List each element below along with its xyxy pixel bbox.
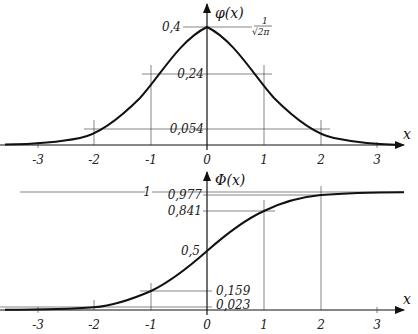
normal-distribution-figure: φ(x) x 1 √2π 0,4 0,24 0,054 -3 -2 -1 0 1… (0, 0, 418, 334)
svg-text:-1: -1 (145, 153, 157, 167)
cdf-ytick-0.023: 0,023 (216, 298, 251, 312)
cdf-ytick-0.5: 0,5 (181, 244, 200, 258)
cdf-ytick-1: 1 (143, 185, 151, 199)
svg-text:-2: -2 (88, 318, 100, 332)
density-x-label: x (403, 126, 411, 142)
svg-text:-3: -3 (32, 318, 44, 332)
density-chart: φ(x) x 1 √2π 0,4 0,24 0,054 -3 -2 -1 0 1… (0, 4, 411, 167)
cdf-ytick-0.841: 0,841 (168, 204, 202, 218)
density-x-tick-labels: -3 -2 -1 0 1 2 3 (32, 153, 381, 167)
cdf-y-label: Φ(x) (215, 172, 245, 188)
cdf-curve (5, 192, 404, 310)
cdf-x-label: x (403, 291, 411, 307)
svg-text:3: 3 (373, 153, 381, 167)
density-ytick-0.054: 0,054 (170, 122, 204, 136)
svg-text:3: 3 (373, 318, 381, 332)
cdf-ytick-0.159: 0,159 (216, 284, 251, 298)
svg-text:1: 1 (260, 318, 268, 332)
cdf-ytick-0.977: 0,977 (168, 188, 203, 202)
frac-numerator: 1 (262, 16, 268, 26)
frac-denominator: √2π (252, 27, 270, 37)
svg-text:1: 1 (260, 153, 268, 167)
density-ytick-0.24: 0,24 (177, 67, 204, 81)
svg-text:0: 0 (203, 318, 211, 332)
density-y-label: φ(x) (215, 5, 244, 21)
svg-text:2: 2 (316, 153, 325, 167)
cdf-guide-lines (0, 186, 404, 310)
cdf-chart: Φ(x) x 1 0,977 0,841 0,5 0,159 0,023 -3 … (0, 172, 411, 332)
svg-text:2: 2 (316, 318, 325, 332)
svg-text:-2: -2 (88, 153, 100, 167)
svg-text:0: 0 (203, 153, 211, 167)
svg-text:-3: -3 (32, 153, 44, 167)
svg-text:-1: -1 (145, 318, 157, 332)
density-ytick-0.4: 0,4 (162, 20, 181, 34)
cdf-x-tick-labels: -3 -2 -1 0 1 2 3 (32, 318, 381, 332)
